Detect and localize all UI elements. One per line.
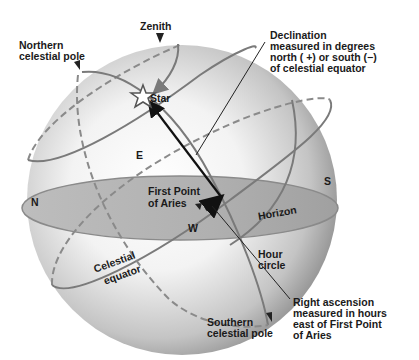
right-ascension-label-4: of Aries [293,329,332,341]
northern-pole-label-2: celestial pole [19,50,85,62]
first-point-label-2: of Aries [148,197,187,209]
west-label: W [188,222,198,234]
southern-pole-label-2: celestial pole [207,327,273,339]
east-label: E [136,149,143,161]
zenith-pointer [156,33,164,43]
declination-label-4: of celestial equator [270,62,366,74]
first-point-label-1: First Point [148,185,200,197]
celestial-sphere-diagram: Zenith Northern celestial pole Star Decl… [0,0,419,360]
zenith-label: Zenith [140,20,172,32]
hour-circle-label-2: circle [258,259,285,271]
north-label: N [31,196,39,208]
star-label: Star [150,92,170,104]
south-label: S [324,175,331,187]
